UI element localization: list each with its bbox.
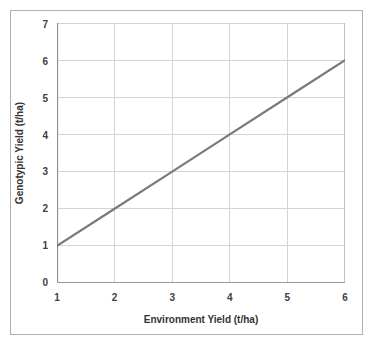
y-tick-label-2: 2 [32,204,48,214]
horizontal-gridlines [57,24,345,246]
x-tick-label-4: 4 [220,293,240,303]
plot-area [57,23,345,283]
plot-svg [57,23,345,283]
x-tick-label-3: 3 [162,293,182,303]
y-tick-label-5: 5 [32,94,48,104]
y-axis-title: Genotypic Yield (t/ha) [14,23,28,283]
x-tick-label-2: 2 [105,293,125,303]
x-axis-title: Environment Yield (t/ha) [57,314,345,325]
y-tick-label-1: 1 [32,241,48,251]
chart-figure: 0 1 2 3 4 5 6 7 1 2 3 4 5 6 [0,0,374,349]
data-series-line [57,60,345,246]
y-tick-label-3: 3 [32,167,48,177]
y-tick-label-0: 0 [32,278,48,288]
y-tick-label-6: 6 [32,57,48,67]
x-tick-label-1: 1 [47,293,67,303]
y-tick-label-7: 7 [32,20,48,30]
x-tick-label-6: 6 [335,293,355,303]
x-tick-label-5: 5 [277,293,297,303]
y-tick-label-4: 4 [32,131,48,141]
